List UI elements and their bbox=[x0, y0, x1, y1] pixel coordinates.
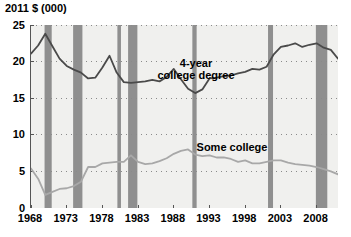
x-axis-tick-label: 1983 bbox=[125, 212, 149, 224]
y-axis-tick-label: 10 bbox=[3, 129, 25, 140]
y-axis-tick-label: 25 bbox=[3, 20, 25, 31]
plot-area bbox=[30, 25, 338, 208]
y-axis-tick-label: 20 bbox=[3, 56, 25, 67]
chart-container: 2011 $ (000) 2520151050 1968197319781983… bbox=[0, 0, 351, 237]
recession-band bbox=[192, 25, 196, 208]
x-axis-tick-label: 1998 bbox=[232, 212, 256, 224]
recession-band bbox=[117, 25, 121, 208]
x-axis-tick-label: 1973 bbox=[53, 212, 77, 224]
x-axis-tick-label: 1988 bbox=[161, 212, 185, 224]
series-label-some-college: Some college bbox=[197, 141, 268, 153]
y-axis-tick-label: 15 bbox=[3, 93, 25, 104]
x-axis-tick-label: 2008 bbox=[303, 212, 327, 224]
recession-band bbox=[45, 25, 52, 208]
series-label-4year-college-degree: 4-yearcollege degree bbox=[157, 57, 234, 81]
y-axis-tick-labels: 2520151050 bbox=[0, 0, 25, 237]
x-axis-tick-label: 1968 bbox=[18, 212, 42, 224]
recession-band bbox=[316, 25, 327, 208]
y-axis-tick-label: 5 bbox=[3, 166, 25, 177]
recession-band bbox=[268, 25, 273, 208]
chart-plot-svg bbox=[31, 25, 338, 208]
x-axis-tick-label: 1993 bbox=[196, 212, 220, 224]
x-axis-tick-label: 2003 bbox=[268, 212, 292, 224]
recession-band bbox=[128, 25, 137, 208]
x-axis-tick-label: 1978 bbox=[89, 212, 113, 224]
